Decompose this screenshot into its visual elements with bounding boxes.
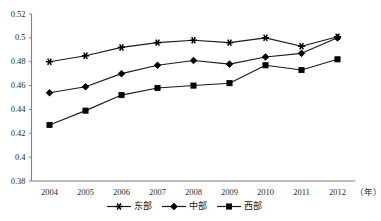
x-tick-label: 2009: [212, 188, 248, 197]
chart-legend: 东部中部西部: [0, 201, 368, 212]
data-point-marker-square: [263, 63, 268, 68]
data-point-marker-square: [299, 67, 304, 72]
data-point-marker-square: [47, 122, 52, 127]
x-tick-label: 2010: [248, 188, 284, 197]
data-point-marker-star: [115, 203, 122, 209]
data-point-marker-square: [226, 204, 231, 209]
data-point-marker-square: [119, 93, 124, 98]
data-point-marker-diamond: [334, 35, 341, 42]
data-point-marker-star: [154, 40, 161, 46]
y-tick-label: 0.46: [0, 81, 26, 90]
x-axis-unit-label: （年）: [355, 188, 381, 197]
x-tick-label: 2004: [32, 188, 68, 197]
y-tick-label: 0.42: [0, 129, 26, 138]
data-point-marker-star: [226, 40, 233, 46]
y-tick-label: 0.4: [0, 153, 26, 162]
data-point-marker-diamond: [118, 70, 125, 77]
legend-label: 西部: [244, 202, 262, 211]
data-point-marker-diamond: [154, 62, 161, 69]
series-3: [47, 57, 340, 128]
data-point-marker-star: [262, 35, 269, 41]
data-point-marker-square: [191, 83, 196, 88]
x-tick-label: 2008: [176, 188, 212, 197]
legend-label: 东部: [134, 202, 152, 211]
x-tick-label: 2006: [104, 188, 140, 197]
legend-marker-star-icon: [106, 201, 132, 212]
y-tick-label: 0.44: [0, 105, 26, 114]
y-tick-label: 0.48: [0, 57, 26, 66]
legend-item-1[interactable]: 东部: [106, 201, 152, 212]
legend-item-3[interactable]: 西部: [216, 201, 262, 212]
data-point-marker-diamond: [171, 203, 178, 210]
y-tick-label: 0.38: [0, 177, 26, 186]
data-point-marker-star: [190, 37, 197, 43]
data-point-marker-diamond: [262, 54, 269, 61]
data-point-marker-square: [83, 108, 88, 113]
data-point-marker-diamond: [226, 61, 233, 68]
legend-marker-square-icon: [216, 201, 242, 212]
data-point-marker-square: [335, 57, 340, 62]
data-point-marker-diamond: [46, 89, 53, 96]
data-point-marker-diamond: [298, 50, 305, 57]
legend-marker-diamond-icon: [161, 201, 187, 212]
data-point-marker-star: [46, 59, 53, 65]
x-tick-label: 2011: [284, 188, 320, 197]
y-tick-label: 0.52: [0, 10, 26, 19]
data-point-marker-star: [118, 44, 125, 50]
x-tick-label: 2007: [140, 188, 176, 197]
x-tick-label: 2012: [320, 188, 356, 197]
data-point-marker-diamond: [190, 57, 197, 64]
data-point-marker-square: [155, 85, 160, 90]
legend-item-2[interactable]: 中部: [161, 201, 207, 212]
legend-label: 中部: [189, 202, 207, 211]
x-tick-label: 2005: [68, 188, 104, 197]
data-point-marker-diamond: [82, 83, 89, 90]
y-tick-label: 0.5: [0, 33, 26, 42]
data-point-marker-star: [82, 53, 89, 59]
data-point-marker-star: [298, 43, 305, 49]
data-point-marker-square: [227, 81, 232, 86]
